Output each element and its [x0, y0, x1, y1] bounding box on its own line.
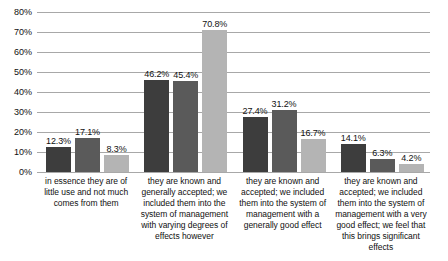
bar[interactable]	[301, 139, 326, 172]
bar-group: 14.1%6.3%4.2%	[332, 12, 430, 172]
bar[interactable]	[341, 144, 366, 172]
y-axis-tick-label: 80%	[0, 7, 32, 17]
bar-group: 12.3%17.1%8.3%	[37, 12, 135, 172]
bar-chart: 0%10%20%30%40%50%60%70%80% 12.3%17.1%8.3…	[0, 0, 448, 261]
y-axis-tick-label: 30%	[0, 107, 32, 117]
bar[interactable]	[272, 110, 297, 172]
bar-slot: 4.2%	[399, 12, 424, 172]
bar[interactable]	[46, 147, 71, 172]
bar-slot: 70.8%	[202, 12, 227, 172]
y-axis-tick-label: 50%	[0, 67, 32, 77]
x-axis-category-labels: in essence they are of little use and no…	[37, 176, 430, 253]
bar[interactable]	[370, 159, 395, 172]
x-axis-category-label: they are known and accepted; we included…	[234, 176, 332, 253]
bar-value-label: 70.8%	[202, 19, 227, 29]
bar-slot: 31.2%	[272, 12, 297, 172]
bar-slot: 27.4%	[243, 12, 268, 172]
bar-group-bars: 12.3%17.1%8.3%	[37, 12, 135, 172]
bar-value-label: 46.2%	[144, 69, 169, 79]
bar[interactable]	[173, 81, 198, 172]
bar-slot: 8.3%	[104, 12, 129, 172]
bar-value-label: 31.2%	[271, 99, 296, 109]
x-axis-category-label: they are known and generally accepted; w…	[135, 176, 233, 253]
x-axis-category-label: in essence they are of little use and no…	[37, 176, 135, 253]
bar-slot: 16.7%	[301, 12, 326, 172]
bar-slot: 6.3%	[370, 12, 395, 172]
y-axis-tick-label: 0%	[0, 167, 32, 177]
bar[interactable]	[75, 138, 100, 172]
bar-group-bars: 46.2%45.4%70.8%	[135, 12, 233, 172]
gridline	[37, 172, 430, 173]
bar-group-bars: 14.1%6.3%4.2%	[332, 12, 430, 172]
y-axis-tick-label: 20%	[0, 127, 32, 137]
bar[interactable]	[144, 80, 169, 172]
bar-group-bars: 27.4%31.2%16.7%	[234, 12, 332, 172]
plot-area: 12.3%17.1%8.3%46.2%45.4%70.8%27.4%31.2%1…	[37, 12, 430, 172]
y-axis-tick-label: 10%	[0, 147, 32, 157]
bar-value-label: 27.4%	[242, 106, 267, 116]
bar-slot: 17.1%	[75, 12, 100, 172]
bar[interactable]	[104, 155, 129, 172]
bar-group: 46.2%45.4%70.8%	[135, 12, 233, 172]
bar-value-label: 45.4%	[173, 70, 198, 80]
bar-value-label: 17.1%	[75, 127, 100, 137]
bar-value-label: 12.3%	[46, 136, 71, 146]
y-axis-tick-label: 70%	[0, 27, 32, 37]
bar-value-label: 16.7%	[300, 128, 325, 138]
bar-value-label: 6.3%	[372, 148, 392, 158]
bar-slot: 14.1%	[341, 12, 366, 172]
bar[interactable]	[399, 164, 424, 172]
bar-slot: 45.4%	[173, 12, 198, 172]
bar-slot: 46.2%	[144, 12, 169, 172]
bar[interactable]	[202, 30, 227, 172]
bar-value-label: 14.1%	[341, 133, 366, 143]
bar-group: 27.4%31.2%16.7%	[234, 12, 332, 172]
y-axis-tick-label: 40%	[0, 87, 32, 97]
bar-groups: 12.3%17.1%8.3%46.2%45.4%70.8%27.4%31.2%1…	[37, 12, 430, 172]
x-axis-category-label: they are known and accepted; we included…	[332, 176, 430, 253]
bar-slot: 12.3%	[46, 12, 71, 172]
bar[interactable]	[243, 117, 268, 172]
bar-value-label: 8.3%	[106, 144, 126, 154]
y-axis-tick-label: 60%	[0, 47, 32, 57]
bar-value-label: 4.2%	[401, 153, 421, 163]
